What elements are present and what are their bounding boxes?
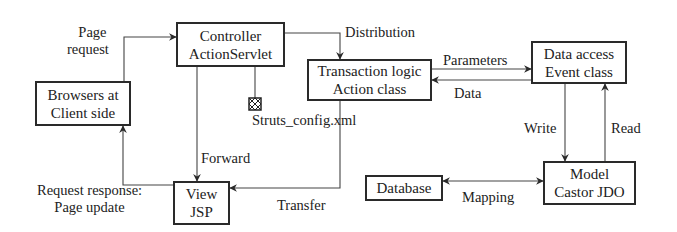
node-label: Action class [333, 80, 407, 98]
edge-label-data: Data [454, 85, 481, 102]
node-database: Database [365, 175, 443, 201]
node-label: Data access [544, 45, 614, 63]
edge-label-mapping: Mapping [462, 189, 514, 206]
node-controller: Controller ActionServlet [176, 22, 285, 67]
edge-label-read: Read [611, 120, 641, 137]
edge-label-parameters: Parameters [443, 52, 507, 69]
edge-page-request [124, 37, 176, 81]
node-label: ActionServlet [189, 45, 272, 63]
node-label: View [186, 185, 218, 203]
edge-label-response: Request response: Page update [37, 182, 142, 216]
node-transaction: Transaction logic Action class [307, 59, 432, 101]
node-data-access: Data access Event class [531, 41, 627, 84]
edge-response [123, 126, 173, 185]
node-label: Castor JDO [554, 183, 624, 201]
node-label: Controller [200, 27, 262, 45]
node-label: Model [570, 165, 609, 183]
node-view: View JSP [173, 181, 230, 225]
edge-distribution [285, 33, 340, 59]
edge-label-write: Write [524, 120, 556, 137]
node-label: Transaction logic [317, 62, 421, 80]
node-browser: Browsers at Client side [35, 81, 131, 126]
node-label: Browsers at [47, 86, 118, 104]
node-label: Database [377, 179, 432, 197]
node-model: Model Castor JDO [543, 161, 636, 205]
edge-label-forward: Forward [201, 150, 250, 167]
config-label: Struts_config.xml [252, 112, 356, 129]
edge-label-transfer: Transfer [277, 197, 326, 214]
node-label: JSP [190, 203, 213, 221]
edge-label-distribution: Distribution [345, 24, 415, 41]
node-label: Event class [545, 63, 613, 81]
xml-config-file-icon [249, 98, 261, 110]
edge-label-page-request: Page request [76, 24, 109, 58]
node-label: Client side [51, 104, 116, 122]
